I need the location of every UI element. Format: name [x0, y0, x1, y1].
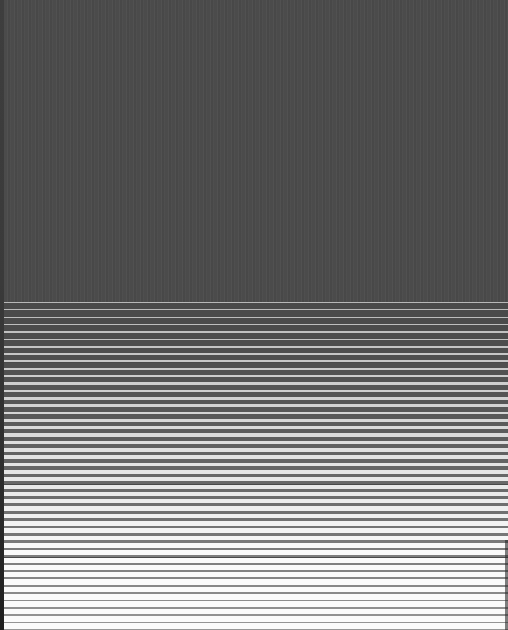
dark-stripe — [0, 466, 508, 470]
dark-stripe — [0, 503, 508, 506]
dark-stripe — [0, 325, 508, 331]
dark-stripe — [0, 377, 508, 382]
dark-stripe — [0, 452, 508, 456]
dark-stripe — [0, 489, 508, 492]
dark-stripe — [0, 563, 508, 565]
dark-stripe — [0, 459, 508, 463]
dark-stripe — [0, 392, 508, 397]
dark-stripe — [0, 303, 508, 309]
dark-stripe — [0, 585, 508, 587]
dark-stripe — [0, 622, 508, 623]
dark-stripe — [0, 511, 508, 514]
dark-stripe — [0, 496, 508, 499]
dark-stripe — [0, 422, 508, 426]
dark-stripe — [0, 437, 508, 441]
dark-stripe — [0, 340, 508, 346]
left-edge-strip — [0, 0, 4, 630]
dark-stripe — [0, 481, 508, 484]
dark-stripe — [0, 614, 508, 616]
dark-stripe — [0, 607, 508, 609]
dark-stripe — [0, 363, 508, 368]
dark-stripe — [0, 570, 508, 572]
dark-stripe — [0, 407, 508, 412]
dark-stripe — [0, 540, 508, 543]
dark-stripe — [0, 592, 508, 594]
dark-stripe — [0, 474, 508, 478]
dark-stripe — [0, 548, 508, 550]
dark-stripe — [0, 355, 508, 360]
dark-stripe — [0, 555, 508, 557]
dark-stripe — [0, 518, 508, 521]
dark-stripe — [0, 444, 508, 448]
dark-texture-field — [0, 0, 508, 302]
dark-stripe — [0, 526, 508, 529]
dark-stripe — [0, 311, 508, 317]
dark-stripe — [0, 600, 508, 602]
stripe-field — [0, 302, 508, 630]
dark-stripe — [0, 414, 508, 418]
dark-stripe — [0, 385, 508, 390]
pattern-canvas — [0, 0, 508, 630]
dark-stripe — [0, 333, 508, 339]
dark-stripe — [0, 370, 508, 375]
dark-stripe — [0, 533, 508, 536]
dark-stripe — [0, 348, 508, 354]
dark-stripe — [0, 577, 508, 579]
dark-stripe — [0, 318, 508, 324]
dark-stripe — [0, 400, 508, 405]
dark-stripe — [0, 429, 508, 433]
